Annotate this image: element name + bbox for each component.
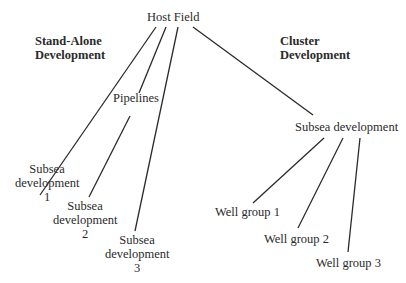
line-host-to-pipelines xyxy=(139,27,166,93)
line-pipelines-to-subsea-2 xyxy=(89,116,130,197)
line-host-to-subsea-3 xyxy=(135,27,178,231)
host-field-node: Host Field xyxy=(147,10,199,24)
well-group-3-node: Well group 3 xyxy=(316,256,381,270)
line-cluster-to-well-1 xyxy=(253,138,324,203)
well-group-1-node: Well group 1 xyxy=(215,205,280,219)
standalone-header: Stand-Alone Development xyxy=(35,34,105,62)
subsea-development-1-node: Subsea development 1 xyxy=(15,162,79,204)
line-cluster-to-well-2 xyxy=(298,138,343,228)
pipelines-label: Pipelines xyxy=(113,91,159,105)
cluster-subsea-development-node: Subsea development xyxy=(295,120,398,134)
line-cluster-to-well-3 xyxy=(348,138,360,252)
cluster-header: Cluster Development xyxy=(280,34,350,62)
well-group-2-node: Well group 2 xyxy=(264,232,329,246)
subsea-development-3-node: Subsea development 3 xyxy=(105,233,169,275)
